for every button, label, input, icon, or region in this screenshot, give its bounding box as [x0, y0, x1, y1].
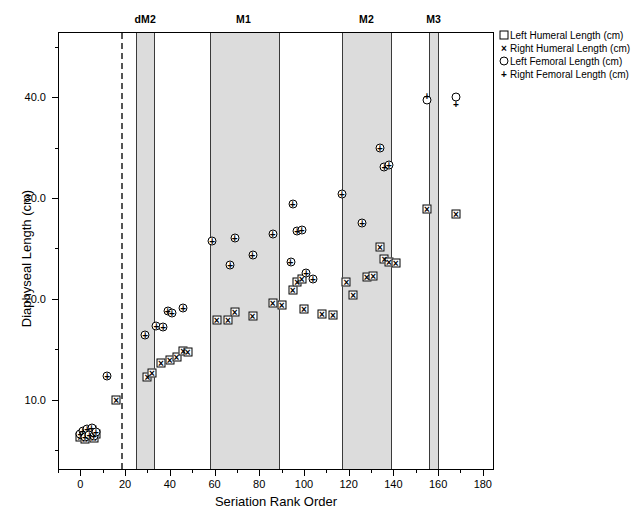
band-label-dm2: dM2	[134, 13, 156, 25]
x-tick	[170, 470, 171, 476]
x-tick	[483, 470, 484, 476]
x-tick-label: 80	[253, 478, 265, 490]
plot-area	[58, 32, 494, 470]
legend: Left Humeral Length (cm)Right Humeral Le…	[498, 29, 644, 81]
x-minor-tick	[147, 470, 148, 473]
x-minor-tick	[416, 470, 417, 473]
y-minor-tick	[55, 349, 58, 350]
x-tick	[438, 470, 439, 476]
shaded-band-m3	[429, 33, 438, 469]
band-edge-line	[154, 33, 155, 469]
band-label-m3: M3	[426, 13, 441, 25]
y-tick-label: 40.0	[0, 91, 46, 103]
y-tick	[52, 97, 58, 98]
x-tick	[80, 470, 81, 476]
legend-label: Right Femoral Length (cm)	[510, 69, 629, 80]
x-tick	[304, 470, 305, 476]
x-minor-tick	[460, 470, 461, 473]
x-minor-tick	[192, 470, 193, 473]
band-edge-line	[438, 33, 439, 469]
x-tick	[259, 470, 260, 476]
plus-marker-icon	[498, 69, 510, 80]
shaded-band-m1	[210, 33, 279, 469]
band-edge-line	[210, 33, 211, 469]
legend-item-plus[interactable]: Right Femoral Length (cm)	[498, 68, 644, 81]
x-tick-label: 100	[295, 478, 313, 490]
y-tick	[52, 400, 58, 401]
band-edge-line	[342, 33, 343, 469]
x-axis-title: Seriation Rank Order	[58, 494, 494, 509]
y-minor-tick	[55, 248, 58, 249]
legend-item-square[interactable]: Left Humeral Length (cm)	[498, 29, 644, 42]
square-marker-icon	[498, 30, 510, 41]
circle-marker-icon	[498, 56, 510, 67]
cross-marker-icon	[498, 43, 510, 54]
x-tick-label: 40	[164, 478, 176, 490]
y-minor-tick	[55, 148, 58, 149]
x-minor-tick	[282, 470, 283, 473]
band-edge-line	[279, 33, 280, 469]
x-tick-label: 120	[339, 478, 357, 490]
dashed-reference-line	[121, 33, 123, 469]
legend-label: Left Femoral Length (cm)	[510, 56, 622, 67]
legend-item-circle[interactable]: Left Femoral Length (cm)	[498, 55, 644, 68]
band-label-m1: M1	[236, 13, 251, 25]
x-tick	[215, 470, 216, 476]
x-minor-tick	[326, 470, 327, 473]
x-minor-tick	[58, 470, 59, 473]
x-minor-tick	[237, 470, 238, 473]
band-edge-line	[136, 33, 137, 469]
x-tick	[349, 470, 350, 476]
legend-item-cross[interactable]: Right Humeral Length (cm)	[498, 42, 644, 55]
x-tick-label: 20	[119, 478, 131, 490]
y-tick-label: 10.0	[0, 394, 46, 406]
chart-figure: dM2M1M2M302040608010012014016018010.020.…	[0, 0, 644, 515]
x-tick-label: 60	[208, 478, 220, 490]
shaded-band-m2	[342, 33, 391, 469]
y-tick	[52, 299, 58, 300]
x-tick-label: 140	[384, 478, 402, 490]
band-edge-line	[429, 33, 430, 469]
x-tick-label: 180	[474, 478, 492, 490]
band-label-m2: M2	[359, 13, 374, 25]
y-tick	[52, 198, 58, 199]
y-minor-tick	[55, 47, 58, 48]
band-edge-line	[391, 33, 392, 469]
shaded-band-dm2	[136, 33, 154, 469]
x-minor-tick	[103, 470, 104, 473]
y-minor-tick	[55, 450, 58, 451]
x-minor-tick	[371, 470, 372, 473]
x-tick-label: 0	[77, 478, 83, 490]
x-tick	[125, 470, 126, 476]
legend-label: Left Humeral Length (cm)	[510, 30, 623, 41]
x-tick-label: 160	[429, 478, 447, 490]
y-axis-title: Diaphyseal Length (cm)	[19, 139, 34, 379]
x-tick	[393, 470, 394, 476]
legend-label: Right Humeral Length (cm)	[510, 43, 630, 54]
